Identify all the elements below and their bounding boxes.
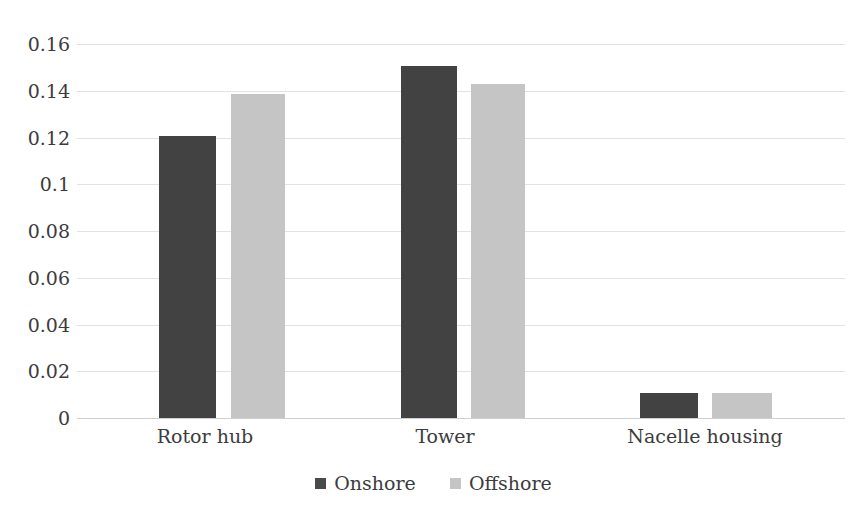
legend-item-onshore: Onshore	[315, 472, 416, 494]
y-tick-label: 0.1	[4, 175, 70, 194]
y-tick-label: 0.06	[4, 268, 70, 287]
y-tick-label: 0	[4, 409, 70, 428]
axis-baseline	[77, 418, 845, 419]
bar-tower-offshore	[471, 84, 525, 418]
plot-area	[77, 44, 845, 418]
y-tick-label: 0.02	[4, 362, 70, 381]
bar-chart: 0.16 0.14 0.12 0.1 0.08 0.06 0.04 0.02 0…	[0, 0, 867, 520]
gridline	[77, 44, 845, 45]
chart-legend: Onshore Offshore	[0, 472, 867, 494]
x-axis-label-tower: Tower	[365, 425, 525, 447]
bar-nacelle-housing-offshore	[712, 393, 772, 418]
legend-swatch-offshore-icon	[450, 478, 461, 489]
y-tick-label: 0.16	[4, 35, 70, 54]
bar-rotor-hub-offshore	[231, 94, 285, 418]
y-tick-label: 0.14	[4, 81, 70, 100]
legend-label-offshore: Offshore	[469, 472, 552, 494]
legend-label-onshore: Onshore	[334, 472, 416, 494]
x-axis-label-nacelle-housing: Nacelle housing	[595, 425, 815, 447]
bar-nacelle-housing-onshore	[640, 393, 698, 418]
legend-swatch-onshore-icon	[315, 478, 326, 489]
bar-rotor-hub-onshore	[159, 136, 216, 418]
legend-item-offshore: Offshore	[450, 472, 552, 494]
y-axis: 0.16 0.14 0.12 0.1 0.08 0.06 0.04 0.02 0	[0, 44, 70, 418]
y-tick-label: 0.12	[4, 128, 70, 147]
x-axis-label-rotor-hub: Rotor hub	[105, 425, 305, 447]
y-tick-label: 0.04	[4, 315, 70, 334]
gridline	[77, 91, 845, 92]
y-tick-label: 0.08	[4, 222, 70, 241]
bar-tower-onshore	[401, 66, 457, 418]
